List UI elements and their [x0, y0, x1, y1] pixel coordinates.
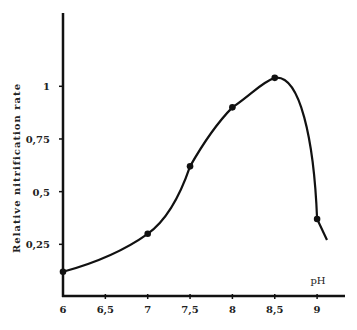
data-point — [144, 230, 151, 237]
data-point — [187, 163, 194, 170]
data-point — [314, 216, 321, 223]
data-point — [271, 75, 278, 82]
data-point — [229, 104, 236, 111]
y-tick-label: 0,25 — [26, 239, 50, 251]
y-tick-label: 0,75 — [26, 134, 50, 146]
x-tick-label: 9 — [314, 304, 321, 315]
x-tick-label: 7,5 — [181, 304, 198, 316]
y-tick-label: 0,5 — [33, 187, 50, 199]
x-axis-title: pH — [310, 275, 325, 286]
chart: 66,577,588,590,250,50,751pHRelative nitr… — [0, 0, 357, 330]
x-tick-label: 7 — [144, 304, 151, 315]
data-point — [60, 268, 67, 275]
x-tick-label: 8 — [229, 304, 236, 315]
x-tick-label: 8,5 — [266, 304, 283, 316]
y-tick-label: 1 — [43, 81, 50, 92]
data-line — [63, 78, 327, 272]
x-tick-label: 6 — [60, 304, 67, 315]
x-tick-label: 6,5 — [97, 304, 114, 316]
y-axis-title: Relative nitrification rate — [11, 83, 22, 253]
